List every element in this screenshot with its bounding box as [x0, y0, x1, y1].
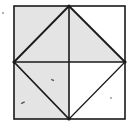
vertex-bottom [67, 117, 70, 120]
speck [2, 12, 4, 14]
diamond-edge-bottom-right [69, 62, 125, 119]
diagram-figure [0, 0, 134, 130]
speck [110, 97, 112, 99]
vertex-left [12, 60, 15, 63]
vertex-right [123, 60, 126, 63]
vertex-top [67, 4, 70, 7]
